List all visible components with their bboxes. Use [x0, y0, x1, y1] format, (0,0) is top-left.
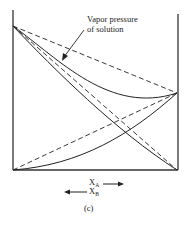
xb-subscript: B	[95, 191, 99, 197]
xb-arrowhead	[64, 190, 70, 195]
solution-vapor-pressure-curve	[13, 26, 177, 98]
ideal-partial-b-line	[13, 93, 177, 170]
annotation-line-2: of solution	[87, 24, 124, 34]
ideal-total-line	[13, 26, 177, 93]
xb-label: XB	[89, 186, 99, 197]
annotation-arrowhead	[62, 53, 68, 61]
annotation-arrow	[64, 30, 84, 57]
xa-arrowhead	[118, 182, 124, 187]
annotation-line-1: Vapor pressure	[87, 14, 138, 24]
figure-caption: (c)	[84, 203, 93, 213]
